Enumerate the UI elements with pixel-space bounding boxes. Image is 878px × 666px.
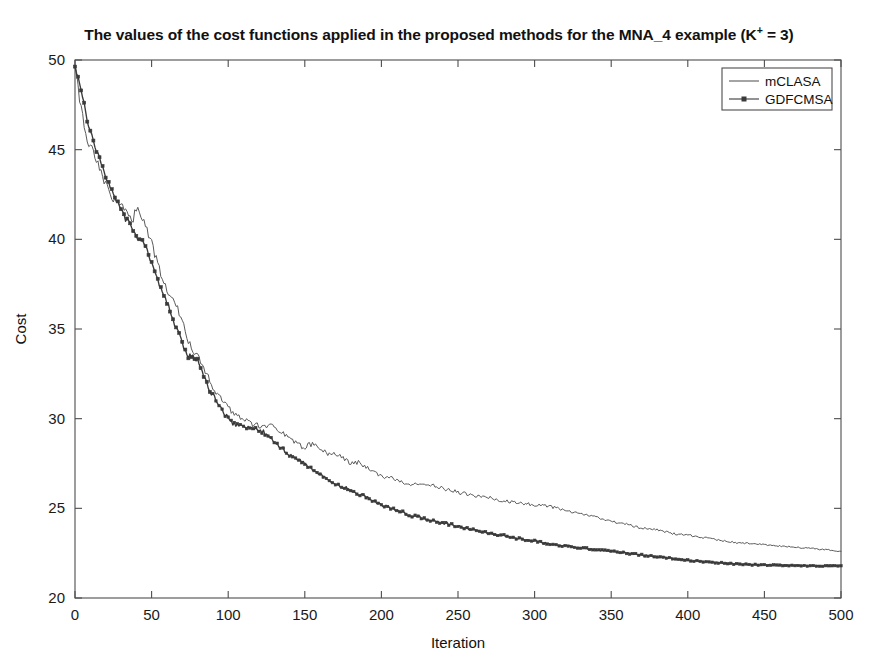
y-tick-label: 40 [48,230,65,247]
x-tick-label: 300 [522,606,547,623]
x-tick-label: 0 [71,606,79,623]
x-tick-label: 400 [675,606,700,623]
x-tick-label: 50 [143,606,160,623]
legend-swatch-marker [742,97,746,101]
figure-canvas: The values of the cost functions applied… [0,0,878,666]
series-layer [74,65,843,567]
plot-area: 050100150200250300350400450500 202530354… [0,0,878,666]
x-tick-label: 150 [292,606,317,623]
y-tick-label: 45 [48,141,65,158]
y-axis-label: Cost [12,313,29,345]
x-tick-label: 500 [828,606,853,623]
legend-label: mCLASA [765,74,821,89]
series-line-mclasa [75,65,841,551]
x-tick-label: 350 [599,606,624,623]
x-tick-label: 200 [369,606,394,623]
x-tick-label: 250 [445,606,470,623]
y-tick-label: 30 [48,410,65,427]
x-axis-label: Iteration [431,634,485,651]
y-tick-label: 25 [48,499,65,516]
y-tick-label: 50 [48,51,65,68]
legend-label: GDFCMSA [765,92,833,107]
y-tick-label: 35 [48,320,65,337]
x-tick-label: 450 [752,606,777,623]
series-markers-gdfcmsa [74,65,843,567]
legend[interactable]: mCLASAGDFCMSA [722,68,833,110]
axis-labels: IterationCost [12,313,485,651]
axis-frame [75,60,841,598]
y-tick-label: 20 [48,589,65,606]
x-tick-label: 100 [216,606,241,623]
